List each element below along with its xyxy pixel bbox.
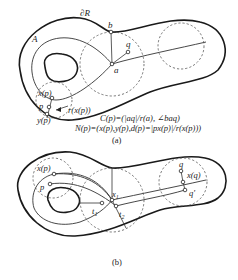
caption-a: (a) xyxy=(112,135,122,145)
node-p-b xyxy=(48,182,52,186)
node-p xyxy=(47,105,51,109)
node-t1 xyxy=(100,201,104,205)
label-boundary: ∂R xyxy=(80,8,90,18)
figure: ∂R A b q a x(p) p y(p) r(x(p)) C(p)=(|aq… xyxy=(0,0,238,280)
axis-right-b-2 xyxy=(116,190,185,206)
label-b: b xyxy=(108,20,113,30)
node-b xyxy=(109,30,113,34)
label-yp: y(p) xyxy=(36,115,51,125)
label-a: a xyxy=(114,65,119,75)
circle-right xyxy=(158,23,204,69)
label-t2: t2 xyxy=(119,209,124,220)
label-xp: x(p) xyxy=(37,88,52,98)
label-q: q xyxy=(126,39,131,49)
segment-ab xyxy=(111,32,112,64)
hole-boundary xyxy=(44,54,77,82)
label-xq: x(q) xyxy=(186,170,201,180)
label-p: p xyxy=(38,101,43,111)
node-xp-b xyxy=(52,172,56,176)
node-t2 xyxy=(114,204,118,208)
formula-N: N(p)=(x(p),y(p),d(p)=|px(p)|/r(x(p))) xyxy=(74,123,201,133)
label-rxp: r(x(p)) xyxy=(68,105,91,115)
label-t1: t1 xyxy=(92,206,97,217)
caption-b: (b) xyxy=(112,257,122,267)
label-p-b: p xyxy=(39,182,44,192)
node-q-b xyxy=(179,169,183,173)
figure-a: ∂R A b q a x(p) p y(p) r(x(p)) C(p)=(|aq… xyxy=(19,8,225,145)
hole-boundary-b xyxy=(48,188,80,213)
label-A: A xyxy=(31,34,38,44)
node-q xyxy=(126,50,130,54)
loop-outer xyxy=(33,173,112,224)
label-x1: x1 xyxy=(111,189,119,200)
node-xq xyxy=(181,180,185,184)
label-xp-b: x(p) xyxy=(36,163,51,173)
figure-b: x(p) p x1 t1 t2 q x(q) q' (b) xyxy=(18,152,227,267)
node-qprime xyxy=(183,188,187,192)
formula-C: C(p)=(|aq|/r(a), ∠baq) xyxy=(100,113,180,123)
label-q-b: q xyxy=(179,159,184,169)
label-qprime: q' xyxy=(189,188,195,198)
